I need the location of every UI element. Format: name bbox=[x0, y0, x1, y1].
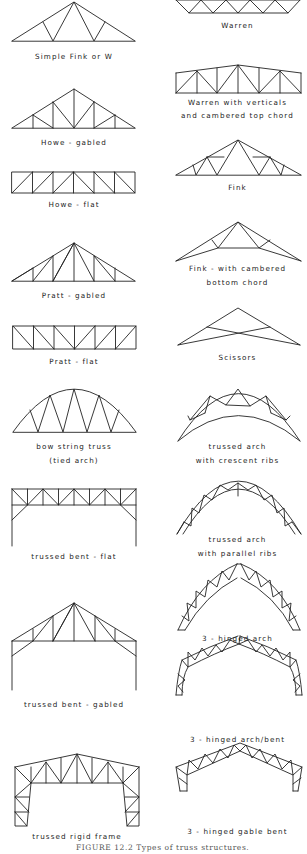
label-trussed-bent-flat: trussed bent - flat bbox=[0, 551, 148, 563]
label-warren-verticals-sub: and cambered top chord bbox=[160, 110, 307, 122]
diagram-trussed-arch-parallel bbox=[177, 481, 301, 534]
label-trussed-arch-crescent-sub: with crescent ribs bbox=[160, 455, 307, 467]
label-scissors: Scissors bbox=[160, 352, 307, 364]
diagram-simple-fink bbox=[12, 2, 135, 41]
diagram-three-hinged-gable-bent bbox=[176, 743, 302, 791]
label-fink-cambered: Fink - with cambered bbox=[160, 263, 307, 275]
label-howe-gabled: Howe - gabled bbox=[0, 137, 148, 149]
diagram-trussed-arch-crescent bbox=[178, 389, 300, 441]
label-fink: Fink bbox=[160, 182, 307, 194]
diagram-three-hinged-arch bbox=[178, 564, 300, 630]
diagram-fink bbox=[176, 140, 301, 175]
label-trussed-arch-parallel-sub: with parallel ribs bbox=[160, 548, 307, 560]
label-trussed-arch-crescent: trussed arch bbox=[160, 441, 307, 453]
figure-caption: FIGURE 12.2 Types of truss structures. bbox=[76, 843, 249, 852]
label-three-hinged-arch-bent: 3 - hinged arch/bent bbox=[160, 734, 307, 746]
label-pratt-flat: Pratt - flat bbox=[0, 356, 148, 368]
label-pratt-gabled: Pratt - gabled bbox=[0, 290, 148, 302]
label-three-hinged-arch: 3 - hinged arch bbox=[160, 633, 307, 645]
diagram-fink-cambered bbox=[176, 222, 301, 261]
label-trussed-rigid-frame: trussed rigid frame bbox=[0, 831, 154, 843]
label-trussed-arch-parallel: trussed arch bbox=[160, 534, 307, 546]
diagram-pratt-flat bbox=[13, 326, 136, 349]
diagram-bow-string bbox=[13, 389, 136, 432]
label-simple-fink: Simple Fink or W bbox=[0, 51, 148, 63]
label-bow-string: bow string truss bbox=[0, 441, 148, 453]
label-warren-verticals: Warren with verticals bbox=[160, 97, 307, 109]
label-howe-flat: Howe - flat bbox=[0, 199, 148, 211]
diagram-trussed-bent-gabled bbox=[12, 603, 136, 690]
label-fink-cambered-sub: bottom chord bbox=[160, 277, 307, 289]
diagram-warren-verticals bbox=[176, 65, 301, 93]
diagram-warren bbox=[176, 0, 300, 13]
diagram-trussed-rigid-frame bbox=[15, 754, 139, 826]
diagram-howe-flat bbox=[12, 172, 135, 193]
diagram-pratt-gabled bbox=[12, 243, 135, 281]
truss-diagrams bbox=[0, 0, 307, 854]
diagram-trussed-bent-flat bbox=[12, 489, 136, 546]
label-three-hinged-gable-bent: 3 - hinged gable bent bbox=[160, 826, 307, 838]
label-trussed-bent-gabled: trussed bent - gabled bbox=[0, 699, 148, 711]
label-warren: Warren bbox=[160, 20, 307, 32]
diagram-howe-gabled bbox=[12, 89, 135, 128]
diagram-scissors bbox=[178, 308, 300, 345]
label-bow-string-sub: (tied arch) bbox=[0, 455, 148, 467]
